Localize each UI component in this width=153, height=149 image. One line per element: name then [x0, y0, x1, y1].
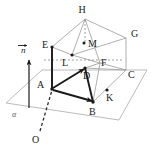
label-point-K: K: [106, 92, 114, 103]
plane-alpha: [6, 70, 147, 120]
label-point-M: M: [88, 38, 97, 49]
geometry-figure: H G M E L F C D A K B O α n: [0, 0, 153, 149]
bold-arrow-A-D: [53, 69, 84, 88]
label-point-D: D: [83, 70, 90, 81]
edge-L-F: [72, 55, 100, 63]
vector-overbar-arrowhead: [24, 44, 27, 47]
geometry-canvas: H G M E L F C D A K B O α n: [0, 0, 153, 149]
label-point-B: B: [89, 106, 96, 117]
label-plane-alpha: α: [12, 110, 17, 119]
label-point-C: C: [128, 69, 135, 80]
label-point-O: O: [32, 134, 39, 145]
label-point-L: L: [62, 57, 68, 68]
edge-L-G: [72, 38, 126, 55]
dashed-edge-O-A: [40, 90, 52, 131]
bold-arrow-A-B: [53, 90, 92, 101]
label-point-F: F: [101, 57, 107, 68]
label-point-E: E: [42, 39, 48, 50]
dot-A: [50, 87, 53, 90]
label-point-G: G: [131, 28, 138, 39]
dot-B: [91, 100, 94, 103]
edge-H-G: [85, 19, 126, 38]
dot-L: [70, 53, 73, 56]
edge-E-L: [52, 47, 72, 55]
label-point-H: H: [78, 4, 85, 15]
dot-M: [83, 42, 86, 45]
edge-D-F: [85, 63, 100, 68]
dashed-construction-lines: [44, 20, 122, 60]
label-point-A: A: [37, 79, 45, 90]
dot-E: [50, 45, 53, 48]
label-normal-vector: n: [21, 45, 26, 55]
